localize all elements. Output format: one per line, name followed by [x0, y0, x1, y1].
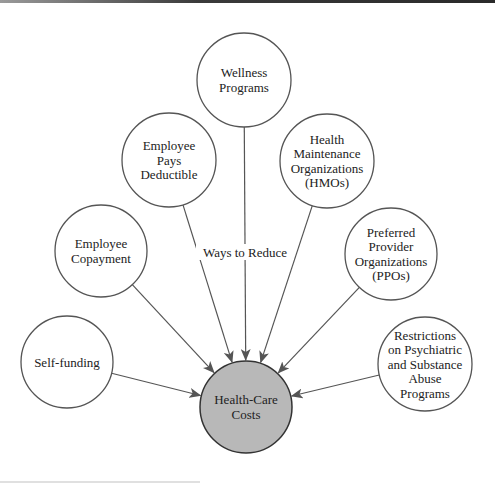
health-care-costs-diagram: Ways to Reduce Self-fundingEmployeeCopay… — [0, 0, 495, 483]
node-employee-copayment: EmployeeCopayment — [55, 205, 147, 297]
node-label-line: Restrictions — [394, 328, 456, 343]
node-label-line: Programs — [400, 386, 450, 401]
center-node-health-care-costs: Health-CareCosts — [200, 361, 292, 453]
node-label-line: Copayment — [71, 251, 131, 266]
arrow-hmos-to-health-care-costs — [261, 206, 313, 363]
node-restrictions: Restrictionson Psychiatricand SubstanceA… — [378, 317, 472, 411]
node-label-line: Maintenance — [293, 146, 360, 161]
node-label-line: Costs — [232, 407, 261, 422]
node-label-line: (PPOs) — [372, 268, 410, 283]
node-label-line: Employee — [75, 236, 128, 251]
node-label-line: Wellness — [221, 65, 268, 80]
edge-label-ways-to-reduce: Ways to Reduce — [203, 245, 287, 260]
node-label-line: Self-funding — [34, 355, 100, 370]
node-hmos: HealthMaintenanceOrganizations(HMOs) — [280, 114, 374, 208]
nodes-layer: Self-fundingEmployeeCopaymentEmployeePay… — [21, 33, 472, 411]
node-label-line: Health-Care — [214, 392, 278, 407]
node-label-line: Preferred — [367, 225, 416, 240]
center-node-layer: Health-CareCosts — [200, 361, 292, 453]
arrow-self-funding-to-health-care-costs — [112, 373, 201, 395]
node-ppos: PreferredProviderOrganizations(PPOs) — [345, 208, 437, 300]
node-label-line: Employee — [143, 138, 196, 153]
node-label-line: (HMOs) — [305, 175, 349, 190]
node-self-funding: Self-funding — [21, 316, 113, 408]
arrow-ppos-to-health-care-costs — [278, 287, 359, 372]
arrow-employee-pays-deductible-to-health-care-costs — [183, 205, 232, 362]
node-label-line: Organizations — [291, 161, 364, 176]
node-label-line: Deductible — [140, 167, 197, 182]
node-label-line: and Substance — [388, 357, 463, 372]
edge-label-layer: Ways to Reduce — [196, 244, 294, 260]
node-label-line: Abuse — [408, 371, 441, 386]
node-label-line: Health — [310, 132, 345, 147]
node-label-line: Organizations — [355, 254, 428, 269]
node-label-line: Provider — [369, 239, 414, 254]
arrow-employee-copayment-to-health-care-costs — [132, 285, 214, 373]
arrow-restrictions-to-health-care-costs — [292, 375, 380, 396]
arrow-wellness-programs-to-health-care-costs — [244, 127, 245, 360]
node-label-line: Pays — [157, 153, 182, 168]
diagram-frame: Ways to Reduce Self-fundingEmployeeCopay… — [0, 0, 495, 483]
node-employee-pays-deductible: EmployeePaysDeductible — [122, 113, 216, 207]
node-wellness-programs: WellnessPrograms — [197, 33, 291, 127]
node-label-line: on Psychiatric — [388, 342, 462, 357]
node-label-line: Programs — [219, 80, 269, 95]
